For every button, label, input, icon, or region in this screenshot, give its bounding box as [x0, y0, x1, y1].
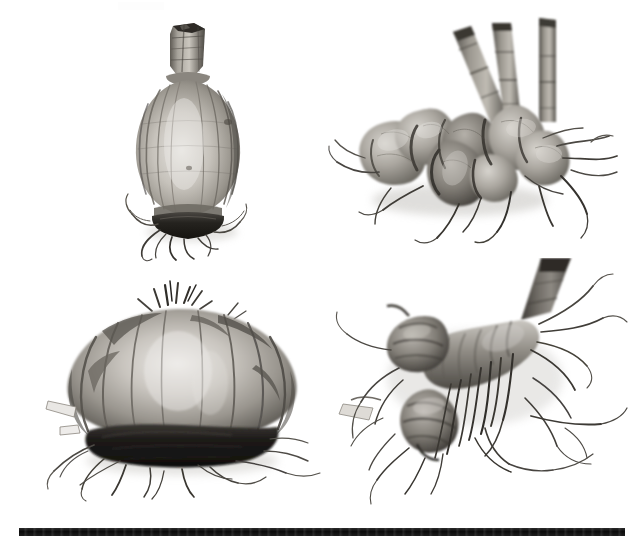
rhizome-illustration — [325, 258, 630, 513]
rhizome-node-upper — [387, 305, 449, 372]
specimen-panel-a-bulb — [110, 18, 270, 263]
scale-bar-fill — [19, 528, 625, 536]
cut-stem-3 — [539, 18, 556, 122]
scale-bar — [19, 528, 625, 536]
tuber-cluster-illustration — [325, 10, 625, 265]
figure-plate — [0, 0, 643, 545]
bulb-blemish — [224, 119, 232, 125]
rhizome-offset-flap — [339, 397, 381, 420]
corm-highlight — [192, 351, 228, 415]
bulb-illustration — [110, 18, 270, 263]
bulb-highlight — [164, 98, 204, 190]
specimen-panel-b-tuber-cluster — [325, 10, 625, 265]
specimen-panel-c-corm — [32, 275, 332, 505]
bulb-stem-remnant — [170, 23, 205, 74]
corm-illustration — [32, 275, 332, 505]
bulb-blemish — [186, 166, 192, 170]
specimen-panel-d-rhizome — [325, 258, 630, 513]
cut-stems — [453, 18, 556, 124]
scan-artifact — [118, 2, 164, 10]
